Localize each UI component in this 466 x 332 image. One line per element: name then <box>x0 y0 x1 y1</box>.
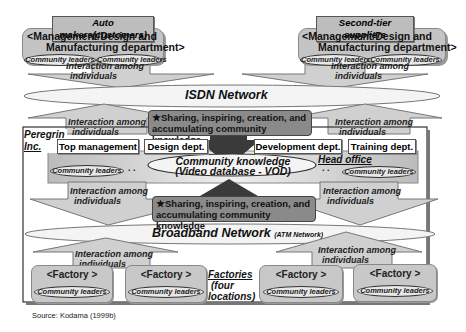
interaction-label-low-left: Interaction amongindividuals <box>70 187 148 206</box>
interaction-label-top-right: Interaction amongindividuals <box>331 62 409 81</box>
dept-training: Training dept. <box>348 139 416 154</box>
factory-box-3: <Factory > Community leaders <box>259 265 343 303</box>
interaction-label-low-right: Interaction amongindividuals <box>323 187 401 206</box>
community-leaders-pill: Community leaders <box>263 286 339 298</box>
factory-box-4: <Factory > Community leaders <box>353 264 437 302</box>
dept-development: Development dept. <box>254 139 342 154</box>
community-leaders-pill: Community leaders <box>357 285 433 297</box>
ellipsis-dots: . . <box>128 163 136 173</box>
factory-box-1: <Factory > Community leaders <box>31 265 113 303</box>
isdn-network-label: ISDN Network <box>185 88 268 102</box>
auto-makers-mgmt-line2: Manufacturing department> <box>46 42 185 53</box>
community-leaders-pill: Community leaders <box>34 286 110 298</box>
community-leaders-pill: Community leaders <box>50 165 124 177</box>
interaction-label-mid-left: Interaction amongindividuals <box>68 118 146 137</box>
sharing-box-upper: ★Sharing, inspiring, creation, andaccumu… <box>148 110 312 136</box>
community-leaders-pill: Community leaders <box>128 286 204 298</box>
ellipsis-dots: . . <box>322 163 330 173</box>
second-tier-mgmt-line2: Manufacturing department> <box>318 42 457 53</box>
sharing-box-lower: ★Sharing, inspiring, creation, andaccumu… <box>152 196 316 222</box>
dept-top-management: Top management <box>57 139 139 154</box>
factory-box-2: <Factory > Community leaders <box>125 265 207 303</box>
interaction-label-bottom-right: Interaction amongindividuals <box>318 246 396 265</box>
community-knowledge-label: Community knowledge (Video database - VO… <box>175 156 291 176</box>
factories-caption: Factories (four locations) <box>208 269 255 302</box>
broadband-network-label: Broadband Network (ATM Network) <box>152 226 323 240</box>
interaction-label-mid-right: Interaction amongindividuals <box>335 118 413 137</box>
community-leaders-pill: Community leaders <box>342 166 416 178</box>
dept-design: Design dept. <box>144 139 208 154</box>
source-caption: Source: Kodama (1999b) <box>32 311 116 320</box>
interaction-label-top-left: Interaction amongindividuals <box>66 62 144 81</box>
atm-network-sublabel: (ATM Network) <box>274 231 323 238</box>
